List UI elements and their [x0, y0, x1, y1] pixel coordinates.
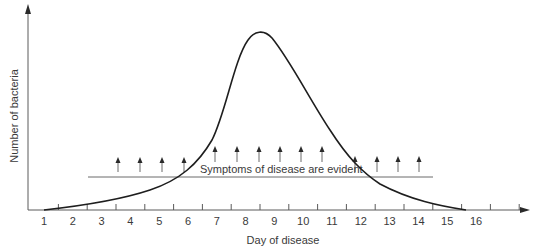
up-arrow-icon — [278, 146, 283, 152]
up-arrow-icon — [396, 156, 401, 162]
up-arrow-icon — [160, 157, 165, 163]
x-tick-label: 3 — [99, 215, 105, 227]
x-tick-label: 16 — [470, 215, 482, 227]
x-tick-label: 9 — [271, 215, 277, 227]
up-arrow-icon — [299, 146, 304, 152]
x-tick-label: 14 — [412, 215, 424, 227]
x-tick-label: 5 — [156, 215, 162, 227]
y-axis-title: Number of bacteria — [8, 68, 20, 162]
up-arrow-icon — [116, 157, 121, 163]
up-arrow-icon — [213, 146, 218, 152]
up-arrow-icon — [375, 156, 380, 162]
x-tick-label: 11 — [326, 215, 337, 227]
up-arrow-icon — [235, 146, 240, 152]
x-axis-title: Day of disease — [247, 234, 320, 246]
up-arrow-icon — [417, 156, 422, 162]
x-tick-label: 7 — [214, 215, 220, 227]
up-arrow-icon — [182, 157, 187, 163]
x-tick-label: 15 — [441, 215, 453, 227]
x-tick-label: 2 — [70, 215, 76, 227]
up-arrow-icon — [257, 146, 262, 152]
x-tick-label: 4 — [127, 215, 133, 227]
x-tick-label: 6 — [185, 215, 191, 227]
up-arrow-icon — [138, 157, 143, 163]
x-tick-label: 8 — [243, 215, 249, 227]
symptom-annotation: Symptoms of disease are evident — [200, 163, 363, 175]
bacteria-curve — [44, 32, 466, 210]
up-arrow-icon — [320, 146, 325, 152]
bacteria-growth-chart: 12345678910111213141516 Number of bacter… — [0, 0, 535, 252]
x-tick-label: 1 — [41, 215, 47, 227]
x-tick-label: 12 — [355, 215, 367, 227]
x-tick-label: 10 — [297, 215, 309, 227]
y-axis-arrow-icon — [25, 4, 31, 14]
x-axis-arrow-icon — [520, 207, 530, 213]
x-tick-label: 13 — [383, 215, 395, 227]
